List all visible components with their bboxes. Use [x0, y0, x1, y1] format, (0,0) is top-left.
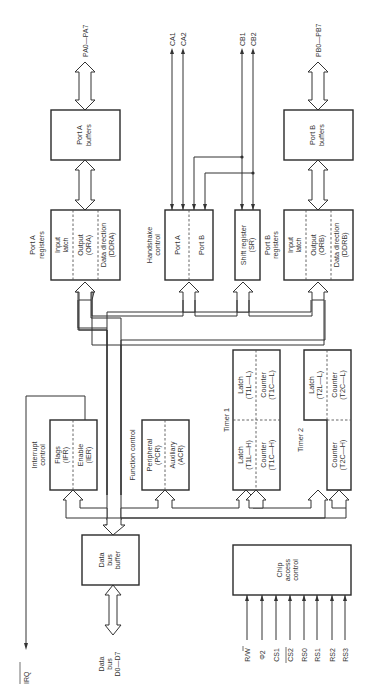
port-a-internal-double-arrow	[75, 160, 95, 210]
timer2-title: Timer 2	[296, 428, 305, 452]
interrupt-title-2: control	[38, 444, 47, 466]
handshake-title-2: control	[153, 234, 162, 256]
input-rs3-label: RS3	[342, 648, 349, 662]
ier-label-2: (IER)	[84, 447, 93, 464]
handshake-port-a: Port A	[173, 235, 182, 255]
port-a-registers-title-1: Port A	[28, 235, 37, 255]
port-b-internal-double-arrow	[308, 160, 328, 210]
function-control-title: Function control	[128, 429, 137, 481]
ca-lines	[170, 48, 185, 210]
pb-double-arrow	[308, 62, 328, 110]
function-bus-arrow	[121, 490, 328, 518]
data-bus-buffer-top-arrow	[103, 518, 125, 535]
input-rs1-label: RS1	[314, 648, 321, 662]
shift-register-label-2: (SR)	[247, 238, 256, 253]
timer1-title: Timer 1	[222, 408, 231, 432]
port-a-input-latch-2: latch	[61, 237, 70, 252]
pa-double-arrow	[75, 62, 95, 110]
t2l-l-2: (T2L—L)	[315, 371, 324, 399]
data-bus-label-2: bus	[106, 658, 113, 670]
pa-signal-label: PA0—PA7	[82, 24, 89, 57]
via-block-diagram: PA0—PA7 Port A buffers Port A registers …	[0, 0, 365, 697]
chip-access-label-3: control	[291, 559, 300, 581]
handshake-port-b: Port B	[197, 235, 206, 255]
ca1-label: CA1	[169, 32, 176, 46]
port-a-buffers-label-2: buffers	[84, 124, 93, 146]
port-a-ddr-2: (DDRA)	[107, 232, 116, 257]
input-rw-label: R/W	[244, 648, 251, 662]
port-a-registers-title-2: registers	[37, 231, 46, 259]
port-b-buffers-label-2: buffers	[317, 124, 326, 146]
port-a-buffers-label-1: Port A	[75, 125, 84, 145]
cb-to-handshake-lines	[192, 155, 255, 210]
pb-signal-label: PB0—PB7	[315, 23, 322, 57]
timer2-bus-arrow	[329, 490, 349, 508]
port-b-output-2: (ORB)	[317, 235, 326, 255]
port-b-input-latch-2: latch	[294, 237, 303, 252]
irq-label: IRQ	[23, 671, 31, 684]
cb1-label: CB1	[239, 32, 246, 46]
acr-label-2: (ACR)	[176, 445, 185, 465]
t2c-h-2: (T2C—H)	[338, 440, 347, 471]
input-phi2-label: Φ2	[259, 650, 266, 660]
bus-arrows	[75, 282, 328, 312]
data-bus-label-3: D0—D7	[114, 651, 121, 676]
ca2-label: CA2	[180, 32, 187, 46]
port-b-buffers-label-1: Port B	[308, 125, 317, 145]
upper-bus-lines	[78, 300, 324, 495]
port-a-output-2: (ORA)	[84, 235, 93, 255]
data-bus-buffer-label-3: buffer	[113, 550, 122, 569]
t2c-l-2: (T2C—L)	[338, 370, 347, 400]
port-b-ddr-2: (DDRB)	[340, 232, 349, 257]
cb2-label: CB2	[250, 32, 257, 46]
chip-input-lines	[245, 595, 347, 640]
t1c-h-2: (T1C—H)	[267, 440, 276, 471]
t1c-l-2: (T1C—L)	[267, 370, 276, 400]
pcr-label-2: (PCR)	[153, 445, 162, 465]
t1l-l-2: (T1L—L)	[244, 371, 253, 399]
port-b-registers-title-2: registers	[271, 231, 280, 259]
ifr-label-2: (IFR)	[61, 447, 70, 463]
internal-bus	[78, 300, 325, 520]
input-cs2-label: CS2	[287, 648, 294, 662]
data-bus-label-1: Data	[98, 657, 105, 672]
input-rs2-label: RS2	[329, 648, 336, 662]
interrupt-bus-arrow	[63, 490, 107, 518]
cb-lines	[240, 48, 255, 210]
t1l-h-2: (T1L—H)	[244, 440, 253, 470]
input-rs0-label: RS0	[301, 648, 308, 662]
input-cs1-label: CS1	[273, 648, 280, 662]
data-bus-external-arrow	[105, 585, 121, 635]
